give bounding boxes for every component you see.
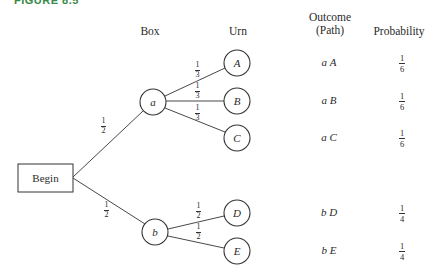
outcome-aA: a A xyxy=(309,56,349,68)
edge-fraction-b-E: 12 xyxy=(196,223,201,241)
node-E-label: E xyxy=(233,245,241,257)
outcome-bE: b E xyxy=(309,244,349,256)
edge-fraction-begin-b: 12 xyxy=(104,201,109,219)
probability-aA: 16 xyxy=(399,54,405,73)
node-D-label: D xyxy=(232,207,241,219)
edge-fraction-a-A: 13 xyxy=(195,61,200,79)
edge-fraction-a-C: 13 xyxy=(195,104,200,122)
edge-fraction-b-D: 12 xyxy=(196,202,201,220)
tree-diagram: Begin a b A B C D E xyxy=(0,0,432,274)
outcome-aC: a C xyxy=(309,131,349,143)
edge-begin-b xyxy=(73,178,145,224)
edge-fraction-begin-a: 12 xyxy=(101,117,106,135)
probability-aB: 16 xyxy=(399,92,405,111)
node-A-label: A xyxy=(233,57,241,69)
probability-bD: 14 xyxy=(399,204,405,223)
node-C-label: C xyxy=(233,132,241,144)
edge-fraction-a-B: 13 xyxy=(195,82,200,100)
outcome-bD: b D xyxy=(309,206,349,218)
probability-bE: 14 xyxy=(399,242,405,261)
node-B-label: B xyxy=(234,95,241,107)
node-b-label: b xyxy=(152,226,158,238)
node-a-label: a xyxy=(150,96,156,108)
edge-begin-a xyxy=(73,111,143,177)
begin-label: Begin xyxy=(32,172,59,184)
probability-aC: 16 xyxy=(399,129,405,148)
outcome-aB: a B xyxy=(309,94,349,106)
